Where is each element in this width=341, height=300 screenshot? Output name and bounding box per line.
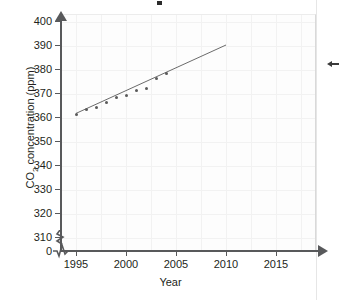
data-point — [85, 108, 88, 111]
y-axis-title-subscript: 2 — [31, 168, 40, 172]
y-axis-title-suffix: concentration (ppm) — [24, 67, 36, 168]
trend-line — [0, 0, 341, 300]
data-point — [165, 72, 168, 75]
co2-concentration-chart: 400 390 380 370 360 350 340 330 320 310 … — [0, 0, 341, 300]
data-point — [95, 106, 98, 109]
left-arrow-icon — [327, 60, 339, 68]
data-point — [115, 96, 118, 99]
y-axis-title: CO2 concentration (ppm) — [24, 33, 39, 223]
data-point — [135, 89, 138, 92]
y-axis-title-prefix: CO — [24, 172, 36, 189]
data-point — [155, 77, 158, 80]
data-point — [75, 113, 78, 116]
data-point — [125, 94, 128, 97]
data-point — [105, 101, 108, 104]
data-point — [145, 87, 148, 90]
x-axis-title: Year — [0, 276, 341, 288]
